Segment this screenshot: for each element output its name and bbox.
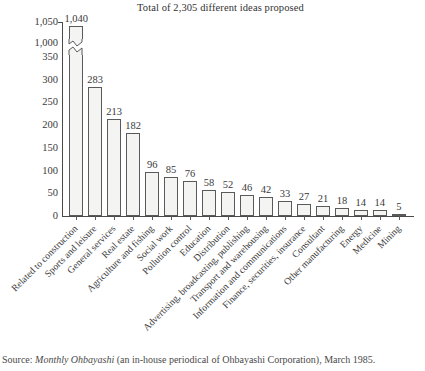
x-axis-tick-mark bbox=[380, 216, 381, 220]
x-axis-tick-mark bbox=[247, 216, 248, 220]
y-axis-tick-label: 300 bbox=[2, 75, 58, 85]
bar-value-label: 21 bbox=[318, 194, 329, 204]
bar-value-label: 52 bbox=[223, 180, 234, 190]
bar-value-label: 27 bbox=[299, 192, 310, 202]
source-prefix: Source: bbox=[2, 354, 33, 365]
bar-value-label: 283 bbox=[87, 75, 103, 85]
source-publication: Monthly Ohbayashi bbox=[35, 354, 114, 365]
source-rest: (an in-house periodical of Ohbayashi Cor… bbox=[117, 354, 376, 365]
x-axis-tick-mark bbox=[152, 216, 153, 220]
bar[interactable] bbox=[316, 206, 330, 216]
x-axis-tick-mark bbox=[228, 216, 229, 220]
chart-title: Total of 2,305 different ideas proposed bbox=[137, 2, 304, 13]
bar-value-label: 33 bbox=[280, 189, 291, 199]
x-axis-tick-mark bbox=[95, 216, 96, 220]
x-axis-tick-mark bbox=[266, 216, 267, 220]
x-axis-tick-mark bbox=[342, 216, 343, 220]
bar-value-label: 182 bbox=[125, 121, 141, 131]
y-axis-tick-label: 1,050 bbox=[2, 17, 58, 27]
bar[interactable] bbox=[240, 195, 254, 216]
bar[interactable] bbox=[126, 133, 140, 216]
x-axis-tick-mark bbox=[171, 216, 172, 220]
bar-value-label: 5 bbox=[396, 202, 401, 212]
x-axis-tick-mark bbox=[304, 216, 305, 220]
y-axis-tick-label: 250 bbox=[2, 97, 58, 107]
bar[interactable] bbox=[164, 177, 178, 216]
bar[interactable] bbox=[335, 208, 349, 216]
bar-value-label: 96 bbox=[147, 160, 158, 170]
bar[interactable] bbox=[183, 181, 197, 216]
bar[interactable] bbox=[259, 197, 273, 216]
y-axis-tick-label: 1,000 bbox=[2, 38, 58, 48]
bar[interactable] bbox=[297, 204, 311, 216]
x-axis-tick-mark bbox=[190, 216, 191, 220]
y-axis-tick-label: 50 bbox=[2, 188, 58, 198]
bar[interactable] bbox=[278, 201, 292, 216]
x-axis-tick-mark bbox=[361, 216, 362, 220]
bar-value-label: 58 bbox=[204, 178, 215, 188]
bar-value-label: 76 bbox=[185, 169, 196, 179]
bar-value-label: 14 bbox=[375, 198, 386, 208]
bar[interactable] bbox=[202, 190, 216, 216]
x-axis-tick-mark bbox=[399, 216, 400, 220]
x-axis-tick-mark bbox=[323, 216, 324, 220]
x-axis-tick-mark bbox=[133, 216, 134, 220]
bar-value-label: 85 bbox=[166, 165, 177, 175]
y-axis-tick-label: 150 bbox=[2, 143, 58, 153]
y-axis-tick-label: 200 bbox=[2, 120, 58, 130]
bar[interactable] bbox=[88, 87, 102, 216]
bar[interactable] bbox=[145, 172, 159, 216]
x-axis-category-labels: Related to constructionSports and leisur… bbox=[0, 216, 425, 336]
bar-value-label: 213 bbox=[106, 107, 122, 117]
bar-value-label: 1,040 bbox=[64, 14, 88, 24]
x-axis-tick-mark bbox=[285, 216, 286, 220]
bar[interactable] bbox=[221, 192, 235, 216]
y-axis-tick-label: 350 bbox=[2, 52, 58, 62]
bar-value-label: 18 bbox=[337, 196, 348, 206]
bar[interactable] bbox=[107, 119, 121, 216]
y-axis-tick-label: 100 bbox=[2, 166, 58, 176]
bar-value-label: 42 bbox=[261, 185, 272, 195]
x-axis-tick-mark bbox=[76, 216, 77, 220]
bar-value-label: 14 bbox=[356, 198, 367, 208]
x-axis-tick-mark bbox=[114, 216, 115, 220]
bar-value-label: 46 bbox=[242, 183, 253, 193]
figure: Total of 2,305 different ideas proposed … bbox=[0, 0, 425, 371]
axis-break-zigzag-icon bbox=[67, 39, 85, 55]
x-axis-tick-mark bbox=[209, 216, 210, 220]
source-note: Source: Monthly Ohbayashi (an in-house p… bbox=[2, 354, 375, 365]
